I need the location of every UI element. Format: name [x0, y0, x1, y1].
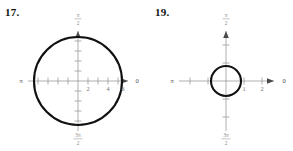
x-tick-label-17-1: 4	[106, 85, 109, 92]
horizontal-axis-19	[179, 78, 274, 84]
pi-over-2-denominator-19: 2	[225, 20, 228, 26]
polar-axis-label-3pi-over-2-19: 3π 2	[222, 132, 231, 146]
polar-axis-label-0-17: 0	[135, 77, 138, 84]
polar-axis-label-pi-19: π	[170, 77, 174, 84]
pi-over-2-numerator-19: π	[225, 12, 228, 18]
x-tick-label-19-1: 2	[260, 85, 263, 92]
three-pi-over-2-denominator-17: 2	[77, 140, 80, 146]
three-pi-over-2-numerator-17: 3π	[75, 132, 81, 138]
polar-axis-label-3pi-over-2-17: 3π 2	[74, 132, 83, 146]
exercise-figure-17: 17.	[0, 0, 146, 151]
x-tick-label-17-0: 2	[86, 85, 89, 92]
polar-plot-19: 1 2 0 π π 2 3π 2	[147, 0, 293, 151]
polar-axis-label-pi-over-2-17: π 2	[75, 12, 82, 26]
polar-axis-label-pi-17: π	[19, 77, 23, 84]
x-tick-label-19-0: 1	[242, 85, 245, 92]
exercise-figure-19: 19.	[147, 0, 293, 151]
three-pi-over-2-numerator-19: 3π	[223, 132, 229, 138]
pi-over-2-denominator-17: 2	[77, 20, 80, 26]
pi-over-2-numerator-17: π	[77, 12, 80, 18]
polar-axis-label-pi-over-2-19: π 2	[223, 12, 230, 26]
polar-plot-17: 2 4 6 0 π π 2 3π 2	[0, 0, 146, 151]
polar-axis-label-0-19: 0	[282, 77, 285, 84]
three-pi-over-2-denominator-19: 2	[225, 140, 228, 146]
x-tick-label-17-2: 6	[121, 85, 124, 92]
